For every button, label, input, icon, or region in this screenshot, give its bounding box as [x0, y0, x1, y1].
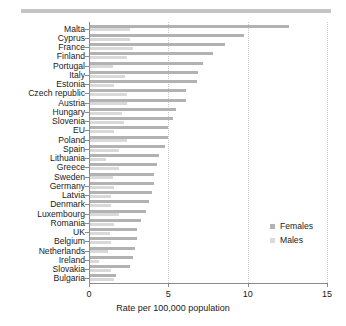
x-tick-mark [248, 283, 249, 287]
bar-females [90, 99, 186, 102]
bar-males [90, 102, 127, 105]
x-tick-label: 10 [233, 289, 263, 300]
x-tick-label: 5 [153, 289, 183, 300]
bar-males [90, 167, 119, 170]
bar-males [90, 176, 113, 179]
bar-males [90, 75, 125, 78]
bar-males [90, 149, 119, 152]
category-label: Bulgaria [0, 274, 85, 283]
category-label: Czech republic [0, 89, 85, 98]
y-tick-mark [85, 66, 89, 67]
y-tick-mark [85, 195, 89, 196]
x-tick-mark [327, 283, 328, 287]
category-label: EU [0, 126, 85, 135]
bar-males [90, 130, 114, 133]
category-label: Finland [0, 52, 85, 61]
bar-males [90, 121, 124, 124]
y-tick-mark [85, 56, 89, 57]
bar-males [90, 158, 106, 161]
y-tick-mark [85, 158, 89, 159]
y-tick-mark [85, 93, 89, 94]
bar-females [90, 265, 130, 268]
bar-males [90, 47, 133, 50]
bar-females [90, 274, 116, 277]
y-tick-mark [85, 251, 89, 252]
bar-males [90, 278, 114, 281]
y-tick-mark [85, 269, 89, 270]
bar-females [90, 136, 168, 139]
y-tick-mark [85, 38, 89, 39]
bar-females [90, 43, 225, 46]
bar-females [90, 200, 149, 203]
gridline [248, 22, 250, 283]
bar-females [90, 154, 159, 157]
legend-swatch-icon [270, 238, 275, 243]
legend-label: Females [280, 221, 313, 231]
y-tick-mark [85, 149, 89, 150]
bar-females [90, 25, 289, 28]
bar-females [90, 62, 203, 65]
category-label: Denmark [0, 200, 85, 209]
bar-males [90, 56, 127, 59]
chart-legend: FemalesMales [270, 219, 313, 247]
bar-females [90, 80, 197, 83]
legend-swatch-icon [270, 224, 275, 229]
bar-females [90, 108, 176, 111]
gridline [327, 22, 329, 283]
bar-males [90, 186, 114, 189]
bar-males [90, 28, 130, 31]
bar-males [90, 195, 111, 198]
legend-entry: Females [270, 219, 313, 233]
bar-males [90, 204, 111, 207]
y-tick-mark [85, 29, 89, 30]
plot-area: MaltaCyprusFranceFinlandPortugalItalyEst… [0, 0, 346, 326]
legend-label: Males [280, 235, 303, 245]
y-tick-mark [85, 121, 89, 122]
bar-females [90, 126, 168, 129]
y-tick-mark [85, 177, 89, 178]
bar-females [90, 228, 137, 231]
y-tick-mark [85, 186, 89, 187]
bar-females [90, 89, 186, 92]
y-tick-mark [85, 232, 89, 233]
bar-males [90, 269, 111, 272]
y-tick-mark [85, 214, 89, 215]
category-label: Greece [0, 163, 85, 172]
y-tick-mark [85, 130, 89, 131]
chart-figure: MaltaCyprusFranceFinlandPortugalItalyEst… [0, 0, 346, 326]
bar-males [90, 38, 130, 41]
bar-males [90, 65, 113, 68]
x-axis-title: Rate per 100,000 population [0, 303, 346, 313]
bar-females [90, 219, 141, 222]
bar-females [90, 182, 154, 185]
x-axis-line [89, 283, 328, 284]
bar-males [90, 112, 122, 115]
bar-males [90, 93, 127, 96]
bar-females [90, 256, 133, 259]
bar-females [90, 237, 137, 240]
x-tick-label: 15 [312, 289, 342, 300]
bar-females [90, 145, 165, 148]
bar-females [90, 71, 198, 74]
y-tick-mark [85, 167, 89, 168]
bar-females [90, 247, 135, 250]
y-tick-mark [85, 241, 89, 242]
bar-females [90, 163, 157, 166]
x-tick-mark [89, 283, 90, 287]
x-tick-mark [168, 283, 169, 287]
y-tick-mark [85, 140, 89, 141]
y-tick-mark [85, 278, 89, 279]
bar-males [90, 260, 99, 263]
y-tick-mark [85, 260, 89, 261]
y-tick-mark [85, 223, 89, 224]
y-tick-mark [85, 103, 89, 104]
category-label: Belgium [0, 237, 85, 246]
bar-females [90, 191, 152, 194]
bar-males [90, 213, 119, 216]
y-tick-mark [85, 47, 89, 48]
bar-males [90, 232, 110, 235]
legend-entry: Males [270, 233, 313, 247]
bar-males [90, 84, 114, 87]
bar-males [90, 139, 127, 142]
bar-males [90, 250, 108, 253]
